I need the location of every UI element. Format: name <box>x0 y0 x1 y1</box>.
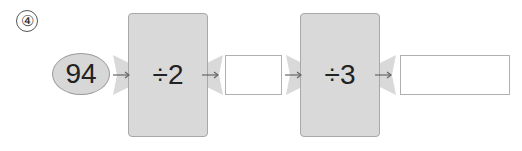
machine-2-operation: ÷3 <box>325 59 356 91</box>
problem-number: ④ <box>16 10 38 32</box>
answer-box-2[interactable] <box>400 55 510 95</box>
machine-1-operation: ÷2 <box>153 59 184 91</box>
input-ellipse: 94 <box>52 53 110 95</box>
arrow-right-icon <box>375 70 393 80</box>
arrow-right-icon <box>285 70 303 80</box>
machine-1: ÷2 <box>128 13 208 137</box>
arrow-right-icon <box>113 70 131 80</box>
machine-2: ÷3 <box>300 13 380 137</box>
answer-box-1[interactable] <box>225 55 282 95</box>
arrow-right-icon <box>202 70 220 80</box>
